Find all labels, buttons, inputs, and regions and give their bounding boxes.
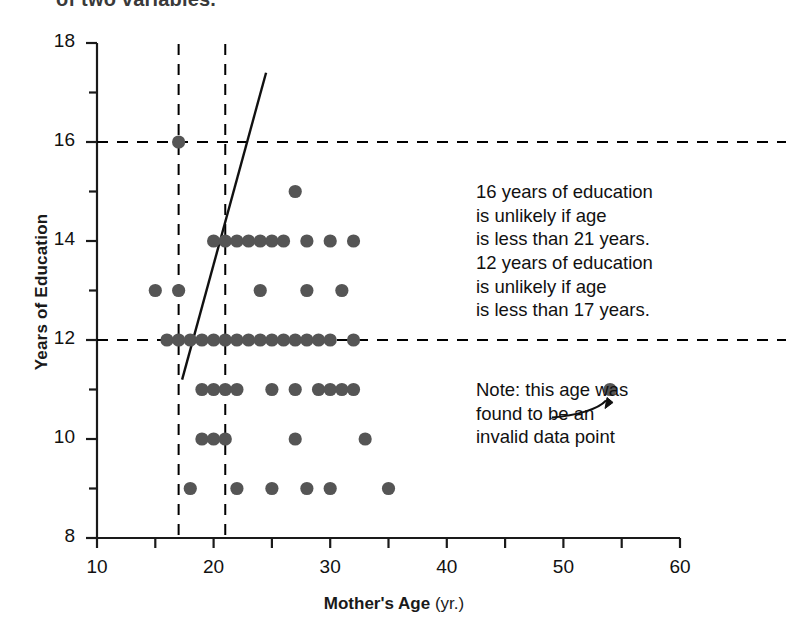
y-tick-label-14: 14	[31, 228, 75, 250]
data-point	[289, 333, 302, 346]
data-point	[172, 284, 185, 297]
data-point	[207, 333, 220, 346]
data-point	[300, 482, 313, 495]
data-point	[207, 383, 220, 396]
data-point	[195, 333, 208, 346]
data-point	[219, 234, 232, 247]
data-point	[265, 482, 278, 495]
annotation-statistics: 16 years of education is unlikely if age…	[476, 180, 653, 322]
data-point	[254, 284, 267, 297]
x-tick-label-40: 40	[417, 556, 477, 578]
y-tick-label-12: 12	[31, 327, 75, 349]
data-point	[277, 333, 290, 346]
y-tick-label-16: 16	[31, 129, 75, 151]
x-tick-label-20: 20	[184, 556, 244, 578]
data-point	[324, 482, 337, 495]
data-point	[265, 234, 278, 247]
data-point	[172, 135, 185, 148]
data-point	[207, 234, 220, 247]
data-point	[195, 383, 208, 396]
x-tick-label-60: 60	[650, 556, 710, 578]
data-point	[207, 432, 220, 445]
data-point	[289, 383, 302, 396]
data-point	[265, 383, 278, 396]
data-point	[300, 333, 313, 346]
data-point	[312, 333, 325, 346]
data-point	[347, 234, 360, 247]
data-point	[335, 284, 348, 297]
data-point	[359, 432, 372, 445]
y-tick-label-10: 10	[31, 426, 75, 448]
data-point	[254, 234, 267, 247]
data-point	[289, 432, 302, 445]
data-point	[254, 333, 267, 346]
scatter-plot-svg	[0, 0, 788, 637]
data-point	[230, 482, 243, 495]
x-tick-label-10: 10	[67, 556, 127, 578]
data-point	[184, 482, 197, 495]
data-point	[289, 185, 302, 198]
data-point	[172, 333, 185, 346]
data-point	[382, 482, 395, 495]
data-point	[335, 383, 348, 396]
data-point	[324, 383, 337, 396]
data-point	[230, 383, 243, 396]
x-tick-label-30: 30	[300, 556, 360, 578]
data-point	[149, 284, 162, 297]
data-point	[347, 333, 360, 346]
y-tick-label-18: 18	[31, 30, 75, 52]
data-point	[347, 383, 360, 396]
data-point	[160, 333, 173, 346]
data-point	[324, 234, 337, 247]
data-point	[300, 284, 313, 297]
x-tick-label-50: 50	[533, 556, 593, 578]
chart-canvas: of two variables. Years of Education Mot…	[0, 0, 788, 637]
data-point	[219, 383, 232, 396]
data-point	[242, 333, 255, 346]
data-point	[242, 234, 255, 247]
data-point	[219, 432, 232, 445]
data-point	[265, 333, 278, 346]
data-point	[184, 333, 197, 346]
data-point	[230, 333, 243, 346]
data-point	[324, 333, 337, 346]
data-point	[300, 234, 313, 247]
y-tick-label-8: 8	[31, 525, 75, 547]
annotation-outlier-note: Note: this age was found to be an invali…	[476, 378, 628, 449]
data-point	[195, 432, 208, 445]
data-point	[230, 234, 243, 247]
data-point	[219, 333, 232, 346]
data-point	[277, 234, 290, 247]
data-point	[312, 383, 325, 396]
